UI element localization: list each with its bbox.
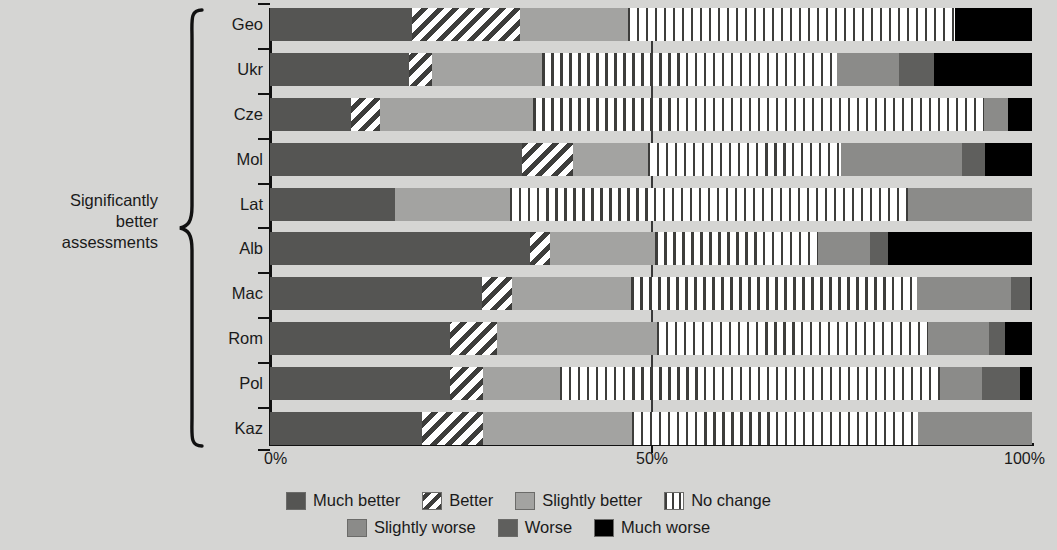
bar-segment-slightly-worse [917, 277, 1011, 310]
category-label-kaz: Kaz [203, 412, 263, 445]
stacked-bar-lat [270, 188, 1032, 221]
bar-segment-much-better [270, 8, 412, 41]
bar-row [270, 277, 1032, 310]
bar-segment-slightly-better [497, 322, 657, 355]
legend-label-worse: Worse [525, 518, 572, 537]
legend-swatch-worse [498, 519, 518, 537]
bar-segment-much-better [270, 322, 450, 355]
y-axis-tick [258, 48, 270, 50]
legend-item-much-better[interactable]: Much better [286, 491, 400, 510]
bar-row [270, 98, 1032, 131]
legend-item-no-change[interactable]: No change [664, 491, 771, 510]
legend-label-better: Better [449, 491, 493, 510]
group-annotation-line-1: Significantly [8, 190, 158, 211]
group-annotation-line-2: better [8, 211, 158, 232]
bar-segment-much-better [270, 232, 530, 265]
legend-swatch-slightly-better [515, 492, 535, 510]
bar-row [270, 143, 1032, 176]
stacked-bar-mol [270, 143, 1032, 176]
bar-segment-better [450, 322, 497, 355]
category-labels: GeoUkrCzeMolLatAlbMacRomPolKaz [205, 8, 263, 445]
bar-segment-slightly-better [432, 53, 542, 86]
bar-segment-slightly-worse [928, 322, 988, 355]
bar-segment-much-better [270, 412, 422, 445]
y-axis-tick [258, 138, 270, 140]
legend-swatch-slightly-worse [347, 519, 367, 537]
y-axis-tick [258, 227, 270, 229]
bar-segment-much-better [270, 53, 409, 86]
bar-segment-much-worse [1030, 277, 1032, 310]
group-annotation-label: Significantly better assessments [8, 190, 158, 253]
bar-row [270, 188, 1032, 221]
x-axis-label-100: 100% [1004, 450, 1045, 468]
bar-segment-no-change [542, 53, 837, 86]
stacked-bar-rom [270, 322, 1032, 355]
bar-segment-slightly-worse [818, 232, 870, 265]
bar-segment-much-worse [934, 53, 1032, 86]
category-label-rom: Rom [203, 322, 263, 355]
bar-segment-better [351, 98, 380, 131]
bar-row [270, 53, 1032, 86]
bar-segment-slightly-better [573, 143, 648, 176]
category-label-lat: Lat [203, 188, 263, 221]
bar-segment-worse [1011, 277, 1031, 310]
bar-segment-slightly-better [520, 8, 628, 41]
stacked-bar-ukr [270, 53, 1032, 86]
curly-brace-icon [178, 8, 204, 448]
bar-segment-no-change [510, 188, 908, 221]
x-axis-label-50: 50% [636, 450, 668, 468]
legend-label-much-worse: Much worse [621, 518, 710, 537]
bar-segment-no-change [533, 98, 984, 131]
category-label-mol: Mol [203, 143, 263, 176]
bar-segment-better [422, 412, 483, 445]
bar-segment-much-better [270, 143, 522, 176]
bar-segment-much-better [270, 98, 351, 131]
bar-rows [270, 8, 1032, 445]
bar-segment-slightly-better [395, 188, 510, 221]
legend-item-slightly-worse[interactable]: Slightly worse [347, 518, 476, 537]
bar-segment-no-change [560, 367, 940, 400]
legend-item-slightly-better[interactable]: Slightly better [515, 491, 642, 510]
legend-item-much-worse[interactable]: Much worse [594, 518, 710, 537]
bar-segment-much-better [270, 188, 395, 221]
bar-segment-no-change [648, 143, 841, 176]
category-label-geo: Geo [203, 8, 263, 41]
bar-segment-much-better [270, 367, 450, 400]
y-axis-tick [258, 93, 270, 95]
legend-item-better[interactable]: Better [422, 491, 493, 510]
legend-label-slightly-worse: Slightly worse [374, 518, 476, 537]
bar-row [270, 412, 1032, 445]
bar-segment-much-worse [1020, 367, 1032, 400]
bar-segment-much-better [270, 277, 482, 310]
bar-segment-no-change [631, 277, 917, 310]
bar-segment-worse [982, 367, 1019, 400]
stacked-bar-pol [270, 367, 1032, 400]
legend-swatch-much-better [286, 492, 306, 510]
legend-label-much-better: Much better [313, 491, 400, 510]
y-axis-tick [258, 362, 270, 364]
category-label-alb: Alb [203, 232, 263, 265]
bar-segment-better [450, 367, 483, 400]
legend-label-no-change: No change [691, 491, 771, 510]
bar-row [270, 367, 1032, 400]
bar-segment-slightly-better [483, 367, 560, 400]
stacked-bar-cze [270, 98, 1032, 131]
chart-canvas: Significantly better assessments GeoUkrC… [0, 0, 1057, 550]
bar-segment-slightly-better [380, 98, 533, 131]
legend-row-1: Much betterBetterSlightly betterNo chang… [0, 487, 1057, 514]
legend-swatch-better [422, 492, 442, 510]
bar-segment-worse [870, 232, 888, 265]
bar-segment-much-worse [1005, 322, 1032, 355]
bar-segment-better [482, 277, 512, 310]
bar-segment-worse [989, 322, 1006, 355]
bar-segment-no-change [628, 8, 955, 41]
legend-item-worse[interactable]: Worse [498, 518, 572, 537]
bar-segment-no-change [655, 232, 818, 265]
bar-segment-much-worse [985, 143, 1032, 176]
bar-segment-much-worse [888, 232, 1032, 265]
bar-segment-much-worse [1008, 98, 1032, 131]
bar-segment-better [412, 8, 520, 41]
bar-row [270, 232, 1032, 265]
bar-segment-better [530, 232, 550, 265]
bar-segment-better [409, 53, 433, 86]
